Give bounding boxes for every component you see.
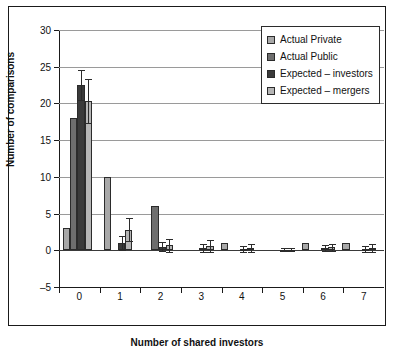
errorbar-cap-3-4-low: [248, 252, 255, 253]
errorbar-2-2: [162, 242, 163, 251]
errorbar-cap-3-3-low: [207, 252, 214, 253]
y-tick-label-5: 5: [11, 208, 51, 219]
bar-1-2: [151, 206, 158, 250]
chart-figure: Number of comparisons Number of shared i…: [0, 0, 395, 349]
errorbar-cap-3-5-high: [288, 248, 295, 249]
errorbar-2-0: [81, 70, 82, 101]
extra-bar-3: [221, 243, 228, 250]
legend-swatch-icon-0: [267, 36, 275, 44]
errorbar-cap-2-0-high: [78, 70, 85, 71]
errorbar-cap-2-3-low: [200, 252, 207, 253]
errorbar-3-2: [169, 239, 170, 252]
legend-item-3: Expected – mergers: [267, 82, 373, 99]
x-tick-mark-7: [343, 288, 344, 293]
x-axis-title: Number of shared investors: [9, 337, 385, 348]
x-tick-label-4: 4: [239, 291, 245, 302]
errorbar-3-7: [372, 244, 373, 251]
x-tick-label-7: 7: [361, 291, 367, 302]
errorbar-cap-3-1-high: [126, 218, 133, 219]
errorbar-cap-2-2-high: [159, 242, 166, 243]
errorbar-cap-2-4-high: [240, 246, 247, 247]
extra-bar-5: [302, 243, 309, 250]
legend-label-2: Expected – investors: [280, 68, 373, 79]
y-tick-label--5: –5: [11, 282, 51, 293]
errorbar-3-0: [88, 79, 89, 123]
x-tick-mark-1: [100, 288, 101, 293]
bar-0-0: [63, 228, 70, 250]
bar-2-0: [77, 85, 84, 250]
x-tick-label-0: 0: [77, 291, 83, 302]
legend-item-2: Expected – investors: [267, 65, 373, 82]
x-tick-mark-0: [59, 288, 60, 293]
x-tick-mark-2: [140, 288, 141, 293]
errorbar-3-3: [210, 240, 211, 252]
errorbar-cap-2-7-high: [362, 246, 369, 247]
errorbar-cap-3-2-low: [166, 252, 173, 253]
x-tick-mark-6: [303, 288, 304, 293]
legend-swatch-icon-3: [267, 87, 275, 95]
x-tick-mark-5: [262, 288, 263, 293]
errorbar-cap-3-1-low: [126, 241, 133, 242]
legend-swatch-icon-1: [267, 53, 275, 61]
errorbar-cap-2-1-low: [119, 250, 126, 251]
errorbar-cap-2-6-low: [322, 251, 329, 252]
errorbar-cap-2-2-low: [159, 251, 166, 252]
legend-item-1: Actual Public: [267, 48, 373, 65]
errorbar-cap-3-7-low: [369, 252, 376, 253]
errorbar-cap-3-2-high: [166, 239, 173, 240]
y-tick-label-20: 20: [11, 98, 51, 109]
y-tick-label-25: 25: [11, 61, 51, 72]
y-tick-label-15: 15: [11, 135, 51, 146]
y-tick-label-30: 30: [11, 25, 51, 36]
bar-0-1: [104, 177, 111, 250]
legend-label-1: Actual Public: [280, 51, 338, 62]
x-tick-mark-4: [222, 288, 223, 293]
x-tick-mark-3: [181, 288, 182, 293]
errorbar-2-3: [203, 244, 204, 251]
legend-swatch-icon-2: [267, 70, 275, 78]
x-tick-label-3: 3: [198, 291, 204, 302]
errorbar-cap-3-3-high: [207, 240, 214, 241]
x-tick-label-2: 2: [158, 291, 164, 302]
errorbar-cap-3-0-high: [85, 79, 92, 80]
x-tick-label-6: 6: [320, 291, 326, 302]
legend-label-3: Expected – mergers: [280, 85, 370, 96]
bar-1-0: [70, 118, 77, 250]
legend-label-0: Actual Private: [280, 34, 342, 45]
chart-frame: Number of comparisons Number of shared i…: [8, 6, 386, 326]
extra-bar-6: [342, 243, 349, 250]
x-tick-label-1: 1: [117, 291, 123, 302]
errorbar-cap-3-5-low: [288, 251, 295, 252]
legend-item-0: Actual Private: [267, 31, 373, 48]
y-tick-label-0: 0: [11, 245, 51, 256]
errorbar-3-6: [332, 244, 333, 251]
errorbar-cap-3-0-low: [85, 123, 92, 124]
errorbar-3-1: [129, 218, 130, 241]
errorbar-cap-3-6-low: [329, 251, 336, 252]
x-tick-label-5: 5: [280, 291, 286, 302]
gridline-y-15: [59, 140, 384, 141]
errorbar-3-4: [251, 244, 252, 251]
errorbar-cap-3-4-high: [248, 244, 255, 245]
chart-legend: Actual PrivateActual PublicExpected – in…: [261, 26, 380, 104]
errorbar-2-1: [122, 236, 123, 251]
errorbar-cap-2-6-high: [322, 245, 329, 246]
errorbar-cap-2-4-low: [240, 252, 247, 253]
y-tick-label-10: 10: [11, 171, 51, 182]
errorbar-cap-3-6-high: [329, 244, 336, 245]
errorbar-cap-2-7-low: [362, 252, 369, 253]
errorbar-cap-3-7-high: [369, 244, 376, 245]
